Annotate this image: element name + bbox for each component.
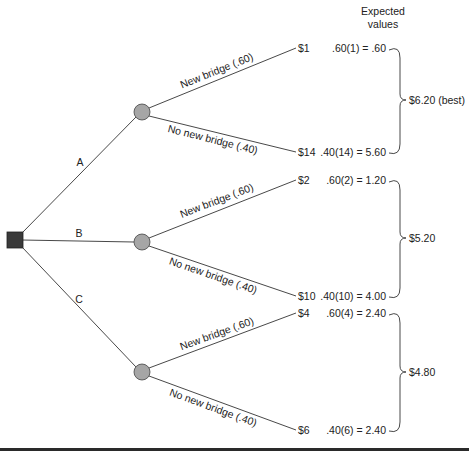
ev-calc-a-new-bridge: .60(1) = .60 — [332, 42, 386, 54]
branch-b-new-bridge-line — [149, 180, 296, 238]
brace-a — [389, 49, 406, 154]
event-a-new-bridge: New bridge (.60) — [178, 50, 254, 90]
brace-c — [389, 314, 406, 432]
decision-tree: Expected values A B C New bridge (.60) N… — [0, 0, 469, 459]
ev-calc-a-no-new-bridge: .40(14) = 5.60 — [320, 146, 386, 158]
ev-calc-c-no-new-bridge: .40(6) = 2.40 — [326, 424, 386, 436]
event-a-no-new-bridge: No new bridge (.40) — [167, 122, 259, 156]
event-c-no-new-bridge: No new bridge (.40) — [168, 386, 259, 429]
alternative-b-label: B — [75, 227, 82, 239]
alternative-a-label: A — [76, 156, 83, 168]
branch-c-line — [22, 247, 136, 367]
expected-value-b: $5.20 — [409, 232, 435, 244]
ev-calc-c-new-bridge: .60(4) = 2.40 — [326, 307, 386, 319]
chance-node-b — [134, 234, 150, 250]
payoff-c-no-new-bridge: $6 — [298, 424, 310, 436]
branch-b-line — [22, 240, 134, 242]
event-b-no-new-bridge: No new bridge (.40) — [168, 255, 259, 296]
event-c-new-bridge: New bridge (.60) — [178, 314, 255, 352]
decision-node-square — [7, 232, 23, 248]
header-expected: Expected — [361, 5, 405, 17]
payoff-b-no-new-bridge: $10 — [298, 290, 316, 302]
brace-b — [389, 181, 406, 298]
payoff-c-new-bridge: $4 — [298, 307, 310, 319]
payoff-a-new-bridge: $1 — [298, 42, 310, 54]
chance-node-c — [134, 364, 150, 380]
alternative-c-label: C — [75, 293, 83, 305]
payoff-a-no-new-bridge: $14 — [298, 146, 316, 158]
branch-c-no-new-bridge-line — [149, 376, 296, 430]
expected-value-a: $6.20 (best) — [409, 94, 465, 106]
header-values: values — [368, 18, 398, 30]
branch-c-new-bridge-line — [149, 313, 296, 368]
chance-node-a — [134, 104, 150, 120]
ev-calc-b-no-new-bridge: .40(10) = 4.00 — [320, 290, 386, 302]
branch-a-line — [22, 117, 136, 233]
payoff-b-new-bridge: $2 — [298, 174, 310, 186]
branch-a-new-bridge-line — [149, 48, 296, 108]
bottom-rule — [0, 448, 469, 451]
expected-value-c: $4.80 — [409, 366, 435, 378]
ev-calc-b-new-bridge: .60(2) = 1.20 — [326, 174, 386, 186]
